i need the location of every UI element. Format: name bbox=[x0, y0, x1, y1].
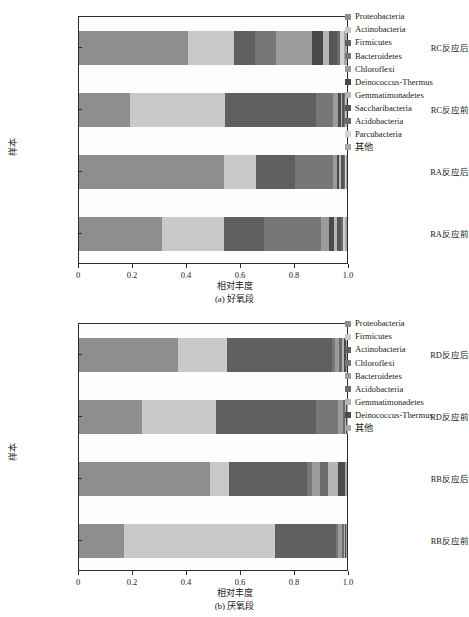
legend-item[interactable]: 其他 bbox=[345, 141, 433, 154]
legend-swatch-icon bbox=[345, 66, 351, 72]
bar-segment bbox=[227, 338, 332, 371]
x-tick-mark bbox=[132, 264, 133, 268]
bar-segment bbox=[338, 462, 345, 495]
plot-area-a bbox=[78, 16, 348, 264]
y-tick-mark bbox=[78, 47, 82, 48]
bar-segment bbox=[210, 462, 228, 495]
bar-segment bbox=[142, 400, 216, 433]
legend-item[interactable]: Firmicutes bbox=[345, 36, 433, 49]
bar-segment bbox=[224, 217, 264, 250]
bar-row bbox=[79, 31, 347, 64]
legend-label: Acidobacteria bbox=[355, 117, 403, 126]
bar-segment bbox=[345, 462, 347, 495]
x-tick-mark bbox=[78, 264, 79, 268]
x-tick-mark bbox=[348, 264, 349, 268]
legend-swatch-icon bbox=[345, 79, 351, 85]
bar-row bbox=[79, 93, 347, 126]
x-tick-mark bbox=[348, 571, 349, 575]
legend-swatch-icon bbox=[345, 334, 351, 340]
legend-swatch-icon bbox=[345, 131, 351, 137]
bar-row bbox=[79, 155, 347, 188]
legend-label: Bacteroidetes bbox=[355, 372, 402, 381]
chart-panel-aerobic: 样本 RC反应后RC反应前RA反应后RA反应前 00.20.40.60.81.0… bbox=[0, 0, 469, 310]
bar-segment bbox=[295, 155, 333, 188]
legend-item[interactable]: Deinococcus-Thermus bbox=[345, 409, 433, 422]
legend-swatch-icon bbox=[345, 144, 351, 150]
x-tick-mark bbox=[186, 264, 187, 268]
bar-segment bbox=[264, 217, 321, 250]
x-tick-mark bbox=[132, 571, 133, 575]
legend-swatch-icon bbox=[345, 347, 351, 353]
bar-segment bbox=[229, 462, 307, 495]
legend-swatch-icon bbox=[345, 40, 351, 46]
legend-item[interactable]: Proteobacteria bbox=[345, 317, 433, 330]
legend-item[interactable]: Acidobacteria bbox=[345, 115, 433, 128]
bar-segment bbox=[346, 524, 347, 557]
legend-item[interactable]: Bacteroidetes bbox=[345, 49, 433, 62]
legend-item[interactable]: Actinobacteria bbox=[345, 23, 433, 36]
legend-item[interactable]: Actinobacteria bbox=[345, 343, 433, 356]
legend-item[interactable]: Chloroflexi bbox=[345, 356, 433, 369]
bar-segment bbox=[346, 155, 347, 188]
bar-segment bbox=[216, 400, 316, 433]
bar-row bbox=[79, 524, 347, 557]
chart-panel-anaerobic: 样本 RD反应后RD反应前RB反应后RB反应前 00.20.40.60.81.0… bbox=[0, 305, 469, 617]
bar-segment bbox=[316, 400, 338, 433]
legend-item[interactable]: Firmicutes bbox=[345, 330, 433, 343]
bar-segment bbox=[328, 462, 338, 495]
stacked-bars-b bbox=[79, 324, 347, 570]
y-tick-mark bbox=[78, 233, 82, 234]
x-axis-title-a: 相对丰度 bbox=[0, 279, 469, 292]
legend-label: Acidobacteria bbox=[355, 385, 403, 394]
legend-item[interactable]: Acidobacteria bbox=[345, 382, 433, 395]
y-axis-title-a: 样本 bbox=[6, 127, 19, 167]
legend-b: ProteobacteriaFirmicutesActinobacteriaCh… bbox=[345, 317, 433, 435]
stacked-bars-a bbox=[79, 17, 347, 263]
panel-caption-a: (a) 好氧段 bbox=[0, 292, 469, 305]
legend-label: Actinobacteria bbox=[355, 25, 406, 34]
legend-label: Gemmatimonadetes bbox=[355, 398, 424, 407]
bar-row bbox=[79, 217, 347, 250]
bar-segment bbox=[178, 338, 227, 371]
legend-swatch-icon bbox=[345, 360, 351, 366]
bar-segment bbox=[79, 462, 210, 495]
legend-item[interactable]: Gemmatimonadetes bbox=[345, 396, 433, 409]
bar-segment bbox=[256, 155, 295, 188]
bar-segment bbox=[224, 155, 256, 188]
figure-root: 样本 RC反应后RC反应前RA反应后RA反应前 00.20.40.60.81.0… bbox=[0, 0, 469, 617]
bar-row bbox=[79, 400, 347, 433]
y-axis-title-b: 样本 bbox=[6, 432, 19, 472]
y-tick-label: RB反应前 bbox=[397, 534, 469, 546]
bar-row bbox=[79, 462, 347, 495]
bar-segment bbox=[320, 462, 328, 495]
bar-segment bbox=[79, 217, 162, 250]
y-tick-mark bbox=[78, 171, 82, 172]
legend-item[interactable]: Parcubacteria bbox=[345, 128, 433, 141]
legend-label: 其他 bbox=[355, 143, 373, 152]
bar-segment bbox=[234, 31, 255, 64]
legend-item[interactable]: Bacteroidetes bbox=[345, 369, 433, 382]
y-tick-label: RA反应后 bbox=[397, 165, 469, 177]
bar-segment bbox=[79, 93, 130, 126]
legend-label: Bacteroidetes bbox=[355, 52, 402, 61]
bar-segment bbox=[225, 93, 317, 126]
legend-item[interactable]: Chloroflexi bbox=[345, 62, 433, 75]
legend-swatch-icon bbox=[345, 105, 351, 111]
legend-item[interactable]: Saccharibacteria bbox=[345, 102, 433, 115]
y-tick-mark bbox=[78, 540, 82, 541]
legend-item[interactable]: Deinococcus-Thermus bbox=[345, 75, 433, 88]
legend-swatch-icon bbox=[345, 118, 351, 124]
legend-item[interactable]: 其他 bbox=[345, 422, 433, 435]
legend-label: Saccharibacteria bbox=[355, 104, 412, 113]
bar-segment bbox=[124, 524, 275, 557]
legend-a: ProteobacteriaActinobacteriaFirmicutesBa… bbox=[345, 10, 433, 154]
bar-segment bbox=[79, 31, 188, 64]
panel-caption-b: (b) 厌氧段 bbox=[0, 599, 469, 612]
y-tick-mark bbox=[78, 354, 82, 355]
legend-item[interactable]: Gemmatimonadetes bbox=[345, 89, 433, 102]
bar-segment bbox=[79, 338, 178, 371]
legend-item[interactable]: Proteobacteria bbox=[345, 10, 433, 23]
bar-segment bbox=[312, 462, 321, 495]
bar-segment bbox=[329, 31, 337, 64]
x-tick-mark bbox=[186, 571, 187, 575]
